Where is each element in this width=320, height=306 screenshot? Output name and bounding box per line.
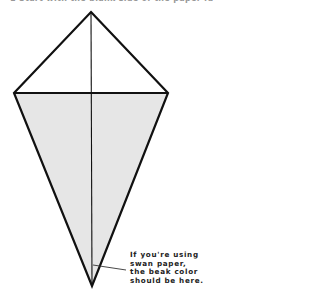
note-line-4: should be here. <box>130 276 204 285</box>
beak-color-note: If you're using swan paper, the beak col… <box>130 251 204 285</box>
